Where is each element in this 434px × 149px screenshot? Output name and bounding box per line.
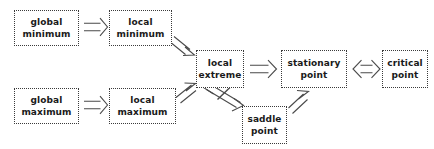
node-label-line1: stationary — [287, 57, 340, 69]
edge-global-min-to-local-min — [84, 18, 108, 36]
edge-local-max-to-local-extreme — [176, 83, 196, 103]
node-label-line1: global — [31, 94, 63, 106]
node-label-line1: critical — [387, 57, 423, 69]
node-global-minimum[interactable]: global minimum — [14, 10, 79, 46]
node-local-extreme[interactable]: local extreme — [196, 50, 244, 88]
node-stationary-point[interactable]: stationary point — [281, 50, 347, 88]
edge-global-max-to-local-max — [84, 96, 108, 114]
node-critical-point[interactable]: critical point — [382, 50, 428, 88]
node-local-minimum[interactable]: local minimum — [109, 10, 172, 46]
node-label-line2: point — [392, 69, 419, 81]
diagram-canvas: global minimum local minimum global maxi… — [0, 0, 434, 149]
node-label-line1: saddle — [247, 113, 281, 125]
node-label-line1: local — [128, 16, 152, 28]
edge-local-extreme-to-stationary-point — [250, 60, 277, 78]
node-label-line2: minimum — [117, 28, 165, 40]
node-label-line2: point — [251, 125, 278, 137]
node-label-line1: local — [208, 57, 232, 69]
edge-saddle-point-to-stationary-point — [289, 91, 309, 114]
node-local-maximum[interactable]: local maximum — [109, 88, 176, 124]
edge-local-min-to-local-extreme — [170, 37, 195, 56]
node-label-line2: maximum — [21, 106, 71, 118]
node-label-line2: minimum — [23, 28, 71, 40]
node-label-line1: global — [31, 16, 63, 28]
node-label-line2: extreme — [199, 69, 242, 81]
node-label-line2: maximum — [117, 106, 167, 118]
node-label-line2: point — [301, 69, 328, 81]
node-global-maximum[interactable]: global maximum — [14, 88, 79, 124]
node-saddle-point[interactable]: saddle point — [242, 106, 287, 144]
node-label-line1: local — [130, 94, 154, 106]
edge-stationary-point-equiv-critical-point — [353, 60, 380, 78]
